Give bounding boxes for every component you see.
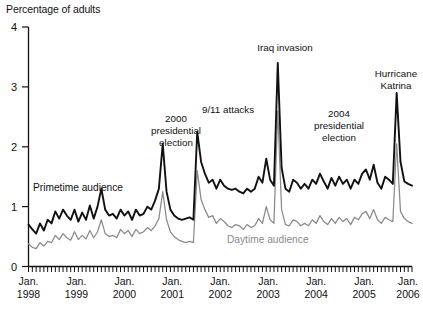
series-label-primetime: Primetime audience xyxy=(33,182,123,193)
x-tick-2000-month: Jan. xyxy=(114,275,134,287)
x-tick-2003-month: Jan. xyxy=(258,275,278,287)
x-tick-2006-year: 2006 xyxy=(396,288,420,300)
annotation-2004-election-line2: presidential xyxy=(314,120,364,131)
x-tick-2003-year: 2003 xyxy=(257,288,281,300)
y-tick-label-4: 4 xyxy=(11,21,17,33)
annotation-katrina-line2: Katrina xyxy=(380,80,412,91)
annotation-hurricane-katrina: Hurricane Katrina xyxy=(375,68,418,91)
x-tick-1998-month: Jan. xyxy=(19,275,39,287)
annotation-2000-election-line3: election xyxy=(159,137,193,148)
annotation-iraq-invasion: Iraq invasion xyxy=(257,42,313,53)
x-tick-1998-year: 1998 xyxy=(17,288,41,300)
x-tick-2000-year: 2000 xyxy=(113,288,137,300)
series-line-primetime xyxy=(29,63,413,234)
x-tick-2006-month: Jan. xyxy=(398,275,418,287)
annotation-2004-election: 2004 presidential election xyxy=(314,108,364,143)
y-tick-label-3: 3 xyxy=(11,81,17,93)
annotation-2000-election-line1: 2000 xyxy=(165,113,187,124)
x-tick-2005-year: 2005 xyxy=(352,288,376,300)
chart-plot-area: 4 3 2 1 0 Jan. 1998 Jan. 1999 Jan. 2000 … xyxy=(0,0,423,314)
y-tick-label-0: 0 xyxy=(11,261,17,273)
x-tick-2004-year: 2004 xyxy=(305,288,329,300)
x-tick-2004-month: Jan. xyxy=(306,275,326,287)
annotation-2004-election-line3: election xyxy=(322,132,356,143)
x-axis-monthly-ticks xyxy=(29,267,413,273)
annotation-2004-election-line1: 2004 xyxy=(328,108,350,119)
series-label-daytime: Daytime audience xyxy=(227,234,309,245)
annotation-katrina-line1: Hurricane xyxy=(375,68,418,79)
x-axis-tick-labels: Jan. 1998 Jan. 1999 Jan. 2000 Jan. 2001 … xyxy=(17,275,420,300)
x-tick-2002-month: Jan. xyxy=(210,275,230,287)
x-tick-2005-month: Jan. xyxy=(354,275,374,287)
annotation-911-attacks: 9/11 attacks xyxy=(202,104,254,115)
annotation-2000-election: 2000 presidential election xyxy=(151,113,201,148)
x-tick-1999-year: 1999 xyxy=(65,288,89,300)
annotation-2000-election-line2: presidential xyxy=(151,125,201,136)
x-tick-2001-year: 2001 xyxy=(161,288,185,300)
x-tick-1999-month: Jan. xyxy=(66,275,86,287)
x-tick-2002-year: 2002 xyxy=(209,288,233,300)
chart-figure: Percentage of adults 4 3 2 1 0 Jan. 1998… xyxy=(0,0,423,314)
x-tick-2001-month: Jan. xyxy=(162,275,182,287)
y-axis-ticks xyxy=(22,27,29,267)
y-tick-label-1: 1 xyxy=(11,201,17,213)
y-tick-label-2: 2 xyxy=(11,141,17,153)
